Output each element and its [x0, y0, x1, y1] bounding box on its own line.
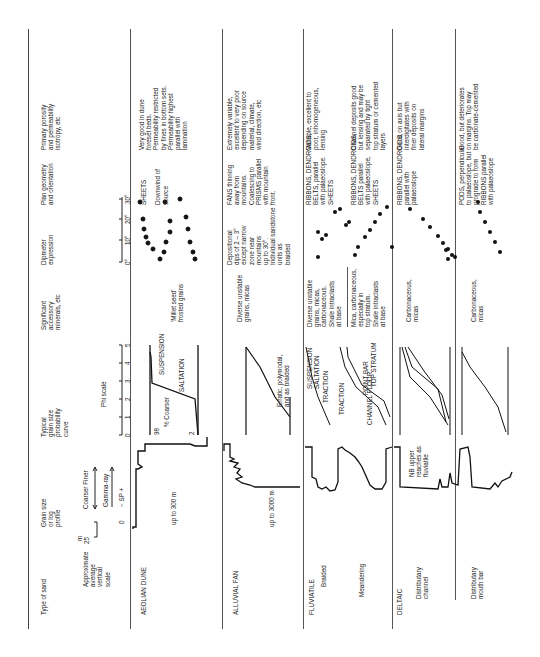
- header-porosity: Primary porosity and permeability isotro…: [40, 104, 62, 150]
- meandering-porosity: Channel deposits good but lensing and ma…: [350, 82, 386, 150]
- row-rule-fluviatile: [303, 29, 304, 629]
- deltaic-mouthbar-minerals: Carbonaceous, micas: [470, 279, 484, 322]
- header-vertical-scale: Approximate average vertical scale: [82, 552, 111, 587]
- alluvial-minerals: Diverse unstable grains, micas: [236, 275, 250, 322]
- alluvial-porosity: Extremely variable, excellent to very po…: [226, 90, 262, 150]
- alluvial-dip: Depositional dips of 2 – 3° except narro…: [226, 208, 291, 265]
- phi-scale-label: Phi scale: [100, 381, 107, 407]
- header-log-profile: Grain size or log profile: [40, 499, 62, 527]
- row-rule-aeolian: [130, 29, 131, 629]
- deltaic-mouthbar-plan: PODS, perpendicular to palaeoslope, but …: [458, 145, 494, 205]
- braided-saltation: SALTATION: [313, 355, 320, 389]
- aeolian-y98: 98: [153, 428, 160, 435]
- dip-tick-20: 20°: [124, 214, 131, 224]
- deltaic-log-note: NB upper reaches as fluviatile: [408, 446, 430, 477]
- aeolian-minerals: 'Millet seed' frosted grains: [170, 284, 184, 322]
- row-rule-alluvial: [222, 29, 223, 629]
- header-type-of-sand: Type of sand: [40, 579, 47, 615]
- deltaic-channel-porosity: Good on axis but interdigitates with fin…: [396, 101, 425, 150]
- row-type-aeolian: AEOLIAN DUNE: [140, 567, 147, 615]
- deltaic-mouthbar-porosity: Good, but deteriorates on margins. Top m…: [458, 83, 480, 150]
- header-dipmeter: Dipmeter expression: [40, 235, 54, 265]
- subrow-rule-fluviatile-minerals: [347, 267, 348, 327]
- fluviatile-braided-label: Braided: [320, 565, 327, 587]
- rotated-table-page: Type of sand Approximate average vertica…: [0, 0, 540, 657]
- deltaic-channel-label: Distributary channel: [415, 567, 429, 599]
- dip-tick-30: 30°: [124, 194, 131, 204]
- log-legend-grain: Coarser Finer: [82, 471, 89, 510]
- scale-bottom: 0: [118, 520, 125, 524]
- subrow-rule-deltaic: [455, 29, 456, 600]
- phi-tick-0: 0: [124, 433, 131, 437]
- deltaic-channel-minerals: Carbonaceous, micas: [405, 279, 419, 322]
- row-type-alluvial: ALLUVIAL FAN: [232, 571, 239, 615]
- header-plan-geometry: Plan geometry and orientation: [40, 163, 54, 205]
- row-rule-deltaic: [392, 29, 393, 629]
- aeolian-porosity: Very good in dune foreset beds. Permeabi…: [138, 86, 188, 150]
- phi-tick-3: 3: [124, 379, 131, 383]
- top-rule: [28, 29, 29, 629]
- aeolian-saltation: SALTATION: [178, 358, 185, 392]
- aeolian-y2: 2: [188, 431, 195, 435]
- meandering-traction: TRACTION: [338, 383, 345, 415]
- meandering-minerals: Mica, carbonaceous, especially in top st…: [350, 269, 386, 327]
- dip-tick-10: 10°: [124, 235, 131, 245]
- meandering-channel-floor: CHANNEL FLOOR: [366, 372, 373, 425]
- aeolian-ylabel: % Coarser: [163, 397, 170, 427]
- row-type-deltaic: DELTAIC: [396, 589, 403, 615]
- dip-tick-0: 0°: [124, 259, 131, 265]
- log-legend-gamma: Gamma-ray: [102, 474, 109, 507]
- alluvial-plan: FANS thinning away from mountains. Coale…: [226, 159, 276, 205]
- phi-tick-1: 1: [124, 415, 131, 419]
- header-minerals: Significant accessory minerals, etc: [40, 294, 62, 330]
- row-type-fluviatile: FLUVIATILE: [308, 579, 315, 615]
- fluviatile-meandering-label: Meandering: [358, 564, 365, 597]
- alluvial-curve-note: Erratic, polymodal, and as braided: [276, 355, 290, 407]
- braided-porosity: Variable, excellent to poor, inhomogeneo…: [305, 88, 327, 150]
- aeolian-suspension: SUSPENSION: [158, 334, 165, 375]
- phi-tick-4: 4: [124, 361, 131, 365]
- log-legend-sp: − SP +: [118, 488, 125, 507]
- header-probability-curve: Typical grain size probability curve: [40, 408, 69, 437]
- braided-traction: TRACTION: [322, 371, 329, 403]
- alluvial-log-note: up to 3000 m: [268, 490, 275, 527]
- aeolian-log-note: up to 300 m: [170, 492, 177, 525]
- phi-tick-5: 5: [124, 343, 131, 347]
- phi-tick-2: 2: [124, 397, 131, 401]
- braided-minerals: Diverse unstable grains, micas, carbonac…: [306, 280, 342, 327]
- deltaic-mouthbar-label: Distributary mouth bar: [470, 567, 484, 599]
- scale-top: 25: [83, 537, 90, 544]
- aeolian-plan: SHEETS Downwind of source: [140, 169, 169, 205]
